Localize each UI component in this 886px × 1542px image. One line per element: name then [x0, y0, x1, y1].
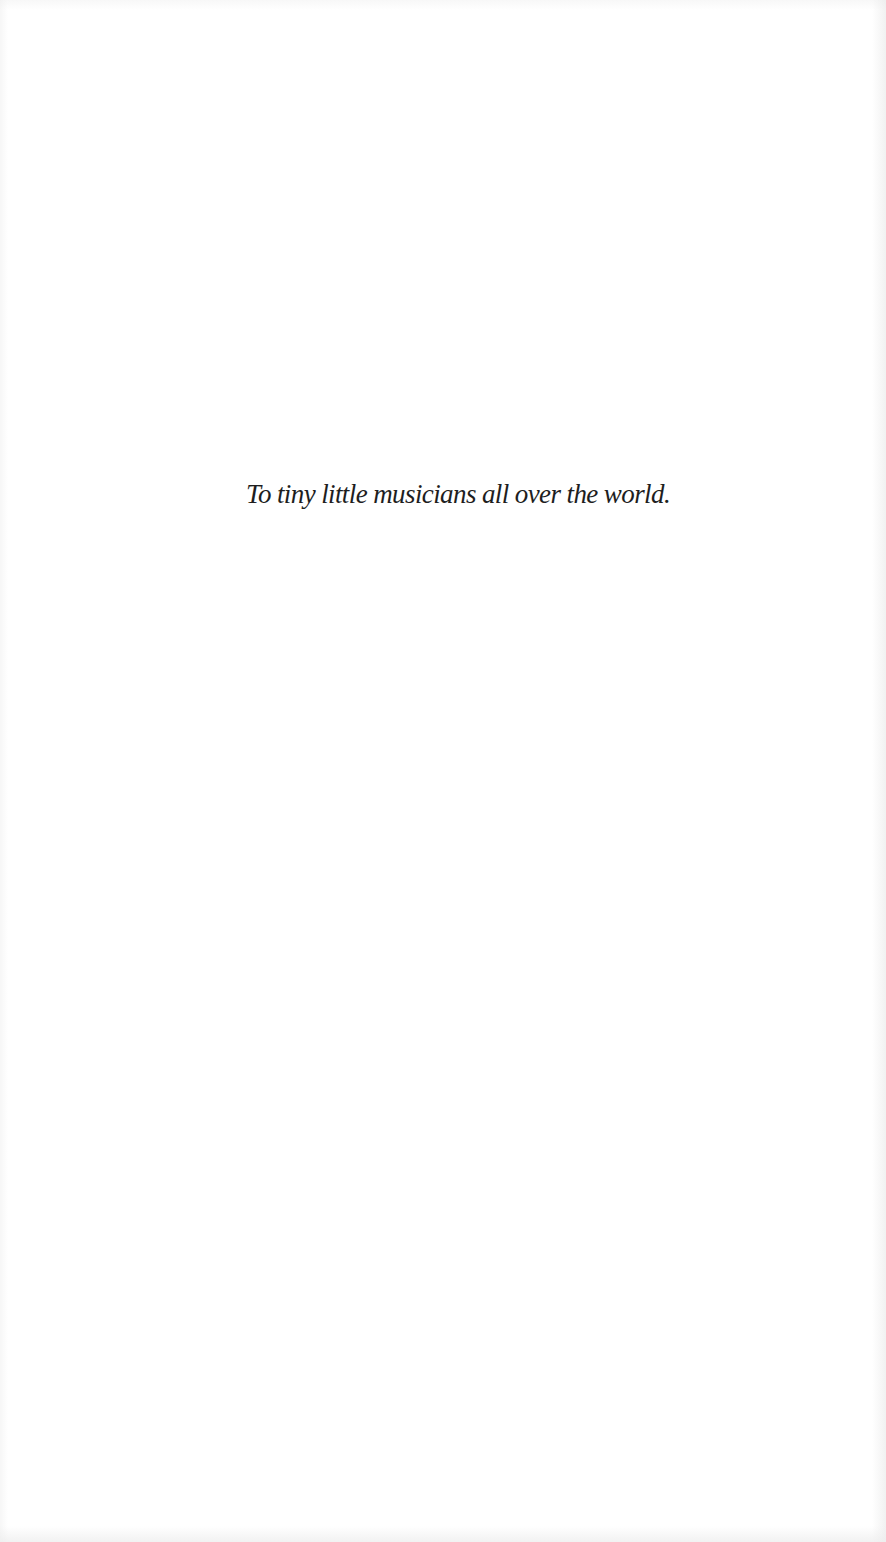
page-edge-shadow-bottom — [0, 1526, 886, 1542]
dedication-text: To tiny little musicians all over the wo… — [0, 474, 886, 514]
page-edge-shadow-right — [872, 0, 886, 1542]
book-page: To tiny little musicians all over the wo… — [0, 0, 886, 1542]
page-edge-shadow-top — [0, 0, 886, 10]
page-edge-shadow-left — [0, 0, 8, 1542]
